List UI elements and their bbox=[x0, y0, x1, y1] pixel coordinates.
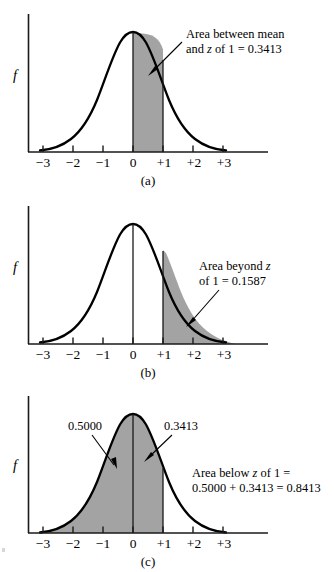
tick-label-b-4: +1 bbox=[157, 347, 171, 362]
panel-label-a: (a) bbox=[141, 173, 155, 188]
tick-label-a-2: −1 bbox=[96, 155, 110, 170]
scan-artifact bbox=[2, 548, 5, 552]
panel-label-b: (b) bbox=[140, 365, 155, 380]
annotation-c-line1: Area below z of 1 = bbox=[192, 466, 290, 480]
y-axis-label-b: f bbox=[13, 259, 19, 275]
annotation-b-pre: Area beyond bbox=[199, 259, 266, 273]
tick-label-c-2: −1 bbox=[96, 536, 110, 551]
annotation-b-z: z bbox=[265, 259, 271, 273]
tick-label-b-5: +2 bbox=[187, 347, 201, 362]
annotation-c-post: of 1 = bbox=[257, 466, 290, 480]
annotation-a-post: of 1 = 0.3413 bbox=[212, 42, 282, 56]
normal-distribution-figure: −3 −2 −1 0 +1 +2 +3 f Area between mean … bbox=[0, 0, 334, 572]
annotation-b-line2: of 1 = 0.1587 bbox=[199, 274, 266, 288]
tick-label-a-4: +1 bbox=[157, 155, 171, 170]
tick-label-b-6: +3 bbox=[217, 347, 232, 362]
tick-label-c-3: 0 bbox=[130, 536, 137, 551]
tick-label-a-6: +3 bbox=[217, 155, 232, 170]
shaded-area-a-fill bbox=[133, 33, 163, 153]
tick-label-b-1: −2 bbox=[66, 347, 80, 362]
panel-c-chart: −3 −2 −1 0 +1 +2 +3 f 0.5000 0.3413 Area… bbox=[0, 380, 334, 572]
tick-label-a-1: −2 bbox=[66, 155, 80, 170]
panel-b: −3 −2 −1 0 +1 +2 +3 f Area beyond z of 1… bbox=[0, 190, 334, 380]
annotation-c-pre: Area below bbox=[192, 466, 253, 480]
annotation-a-line2: and z of 1 = 0.3413 bbox=[186, 42, 282, 56]
annotation-b-line1: Area beyond z bbox=[199, 259, 271, 273]
panel-a: −3 −2 −1 0 +1 +2 +3 f Area between mean … bbox=[0, 0, 334, 190]
tick-label-c-4: +1 bbox=[157, 536, 171, 551]
tick-label-c-6: +3 bbox=[217, 536, 232, 551]
tick-label-c-0: −3 bbox=[36, 536, 51, 551]
y-axis-label-a: f bbox=[13, 67, 19, 83]
right-area-value-c: 0.3413 bbox=[164, 419, 198, 433]
tick-label-a-3: 0 bbox=[130, 155, 137, 170]
tick-label-a-5: +2 bbox=[187, 155, 201, 170]
annotation-b-leader bbox=[190, 290, 219, 323]
annotation-a-pre: and bbox=[186, 42, 207, 56]
tick-label-c-1: −2 bbox=[66, 536, 80, 551]
panel-c: −3 −2 −1 0 +1 +2 +3 f 0.5000 0.3413 Area… bbox=[0, 380, 334, 572]
panel-a-chart: −3 −2 −1 0 +1 +2 +3 f Area between mean … bbox=[0, 0, 334, 190]
tick-label-b-3: 0 bbox=[130, 347, 137, 362]
panel-b-chart: −3 −2 −1 0 +1 +2 +3 f Area beyond z of 1… bbox=[0, 190, 334, 380]
tick-label-b-2: −1 bbox=[96, 347, 110, 362]
annotation-c-line2: 0.5000 + 0.3413 = 0.8413 bbox=[192, 481, 321, 495]
y-axis-label-c: f bbox=[13, 457, 19, 473]
panel-label-c: (c) bbox=[141, 554, 155, 569]
tick-label-a-0: −3 bbox=[36, 155, 51, 170]
tick-label-c-5: +2 bbox=[187, 536, 201, 551]
left-area-value-c: 0.5000 bbox=[68, 419, 102, 433]
tick-label-b-0: −3 bbox=[36, 347, 51, 362]
annotation-a-line1: Area between mean bbox=[186, 27, 284, 41]
